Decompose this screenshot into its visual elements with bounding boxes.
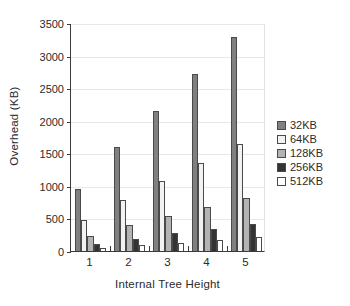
- x-axis-tick-mark: [188, 246, 189, 251]
- y-axis-tick-label: 2000: [40, 116, 64, 128]
- y-axis-tick-label: 1500: [40, 148, 64, 160]
- y-axis-tick-label: 2500: [40, 83, 64, 95]
- y-axis-tick-label: 500: [46, 213, 64, 225]
- y-axis-tick-mark: [67, 252, 71, 253]
- x-axis-tick-mark: [227, 246, 228, 251]
- bar-group: [227, 25, 266, 251]
- x-axis-tick-label: 4: [203, 256, 209, 268]
- x-axis-tick-label: 3: [164, 256, 170, 268]
- y-axis-tick-label: 1000: [40, 181, 64, 193]
- bar-chart-figure: Overhead (KB) 05001000150020002500300035…: [0, 0, 350, 306]
- legend: 32KB64KB128KB256KB512KB: [277, 118, 347, 188]
- x-axis-tick-label: 2: [125, 256, 131, 268]
- x-axis-tick-label: 5: [242, 256, 248, 268]
- bar-group: [71, 25, 110, 251]
- x-axis-tick-labels: 12345: [70, 256, 265, 274]
- legend-swatch-icon: [277, 149, 286, 158]
- legend-swatch-icon: [277, 121, 286, 130]
- legend-item[interactable]: 32KB: [277, 118, 347, 132]
- y-axis-tick-label: 3000: [40, 51, 64, 63]
- legend-label: 64KB: [290, 134, 317, 145]
- bar: [178, 243, 184, 251]
- legend-swatch-icon: [277, 163, 286, 172]
- legend-swatch-icon: [277, 177, 286, 186]
- x-axis-tick-label: 1: [86, 256, 92, 268]
- legend-label: 256KB: [290, 162, 323, 173]
- bar: [139, 245, 145, 251]
- bar-group: [110, 25, 149, 251]
- bar-group: [188, 25, 227, 251]
- legend-label: 128KB: [290, 148, 323, 159]
- bar-group: [149, 25, 188, 251]
- legend-label: 32KB: [290, 120, 317, 131]
- y-axis-title: Overhead (KB): [4, 0, 24, 252]
- x-axis-tick-mark: [149, 246, 150, 251]
- legend-item[interactable]: 256KB: [277, 160, 347, 174]
- legend-item[interactable]: 128KB: [277, 146, 347, 160]
- legend-item[interactable]: 512KB: [277, 174, 347, 188]
- x-axis-title: Internal Tree Height: [70, 278, 265, 290]
- y-axis-tick-labels: 0500100015002000250030003500: [24, 24, 64, 252]
- y-axis-tick-label: 0: [58, 246, 64, 258]
- bars-layer: [71, 25, 264, 251]
- legend-swatch-icon: [277, 135, 286, 144]
- y-axis-title-text: Overhead (KB): [8, 86, 20, 165]
- bar: [256, 237, 262, 251]
- plot-area: [70, 24, 265, 252]
- x-axis-tick-mark: [110, 246, 111, 251]
- bar: [217, 240, 223, 251]
- y-axis-tick-label: 3500: [40, 18, 64, 30]
- legend-item[interactable]: 64KB: [277, 132, 347, 146]
- bar: [100, 248, 106, 251]
- legend-label: 512KB: [290, 176, 323, 187]
